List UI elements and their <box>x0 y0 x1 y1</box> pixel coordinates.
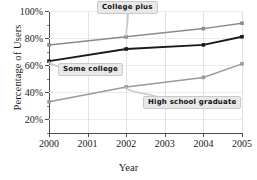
series-line-1 <box>49 37 242 61</box>
x-tick <box>242 133 243 137</box>
data-point <box>124 85 128 89</box>
y-tick-label: 40% <box>25 87 43 98</box>
y-tick-label: 60% <box>25 60 43 71</box>
x-tick-label: 2003 <box>155 138 175 149</box>
x-tick-label: 2004 <box>193 138 213 149</box>
x-tick-label: 2002 <box>116 138 136 149</box>
x-tick <box>203 133 204 137</box>
data-point <box>202 27 206 31</box>
x-tick <box>49 133 50 137</box>
x-tick-label: 2005 <box>232 138 252 149</box>
data-point <box>202 43 206 47</box>
data-point <box>47 100 51 104</box>
data-point <box>124 35 128 39</box>
x-tick <box>88 133 89 137</box>
gridline-v <box>242 11 243 133</box>
data-point <box>240 35 244 39</box>
x-tick-label: 2001 <box>78 138 98 149</box>
data-point <box>124 47 128 51</box>
callout-label-high-school-graduate: High school graduate <box>143 96 241 109</box>
data-point <box>202 76 206 80</box>
x-tick <box>126 133 127 137</box>
x-tick-label: 2000 <box>39 138 59 149</box>
callout-label-college-plus: College plus <box>97 1 158 14</box>
data-point <box>240 62 244 66</box>
line-chart: Percentage of Users Year 20%40%60%80%100… <box>0 0 257 180</box>
data-point <box>47 43 51 47</box>
data-point <box>240 21 244 25</box>
y-tick-label: 80% <box>25 33 43 44</box>
x-axis-line <box>49 133 242 134</box>
x-axis-title: Year <box>0 162 257 173</box>
x-tick <box>165 133 166 137</box>
callout-label-some-college: Some college <box>58 63 123 76</box>
series-line-0 <box>49 23 242 45</box>
data-point <box>47 59 51 63</box>
y-axis-title: Percentage of Users <box>12 20 23 116</box>
y-tick-label: 100% <box>20 6 43 17</box>
y-tick-label: 20% <box>25 114 43 125</box>
